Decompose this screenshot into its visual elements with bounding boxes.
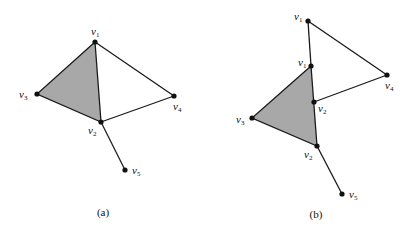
label-v1-lower: v1 bbox=[298, 56, 307, 70]
edge-v2-v5 bbox=[317, 146, 342, 194]
vertex-v3 bbox=[34, 91, 39, 96]
vertex-v1 bbox=[92, 39, 97, 44]
edge-v1top-v4 bbox=[308, 21, 387, 75]
label-v1-top: v1 bbox=[294, 10, 303, 24]
label-v5: v5 bbox=[349, 188, 358, 202]
vertex-v4 bbox=[171, 93, 176, 98]
label-v5: v5 bbox=[132, 164, 141, 178]
vertex-v2-lower bbox=[314, 143, 319, 148]
edge-v1top-v1 bbox=[308, 21, 311, 66]
vertex-v5 bbox=[339, 191, 344, 196]
label-v2: v2 bbox=[88, 124, 97, 138]
edge-v1-v4 bbox=[95, 42, 174, 96]
vertex-v2-mid bbox=[311, 99, 316, 104]
label-v4: v4 bbox=[173, 100, 182, 114]
caption-a: (a) bbox=[97, 206, 110, 219]
edge-v2-v5 bbox=[101, 122, 125, 170]
vertex-v1-top bbox=[305, 18, 310, 23]
vertex-v4 bbox=[384, 72, 389, 77]
vertex-v1-lower bbox=[308, 63, 313, 68]
label-v2-lower: v2 bbox=[304, 148, 313, 162]
label-v1: v1 bbox=[91, 25, 100, 39]
diagram-canvas: v1 v2 v3 v4 v5 (a) v1 v1 v4 v2 v3 v2 v5 … bbox=[0, 0, 411, 231]
edge-v4-v2mid bbox=[314, 75, 387, 102]
caption-b: (b) bbox=[310, 208, 323, 221]
label-v4: v4 bbox=[385, 79, 394, 93]
label-v3: v3 bbox=[236, 113, 245, 127]
vertex-v3 bbox=[249, 115, 254, 120]
label-v3: v3 bbox=[19, 88, 28, 102]
shaded-triangle-a bbox=[37, 42, 101, 122]
edge-v4-v2 bbox=[101, 96, 174, 122]
figure-b: v1 v1 v4 v2 v3 v2 v5 (b) bbox=[236, 10, 394, 221]
label-v2-mid: v2 bbox=[318, 102, 327, 116]
figure-a: v1 v2 v3 v4 v5 (a) bbox=[19, 25, 182, 219]
vertex-v2 bbox=[98, 119, 103, 124]
shaded-triangle-b bbox=[252, 66, 317, 146]
vertex-v5 bbox=[122, 167, 127, 172]
